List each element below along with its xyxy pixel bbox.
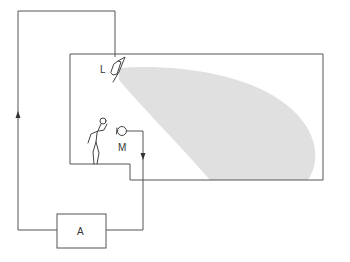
arrow-down-icon (141, 153, 146, 160)
arrow-up-icon (16, 111, 21, 118)
microphone-label: M (118, 142, 126, 153)
loudspeaker-label: L (100, 64, 106, 75)
feedback-diagram: L M A (0, 0, 350, 262)
amplifier-label: A (77, 226, 84, 237)
microphone-icon (117, 127, 127, 136)
person-icon (88, 118, 107, 164)
sound-beam (119, 67, 315, 180)
